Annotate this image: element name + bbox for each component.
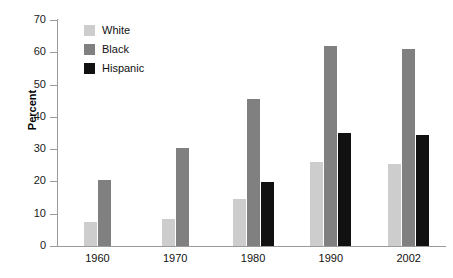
y-axis-tick-label: 60 [18, 46, 46, 57]
bar-white [233, 199, 246, 246]
y-axis-tick [50, 214, 57, 215]
x-axis-tick-label: 1980 [223, 252, 283, 264]
bar-white [310, 162, 323, 246]
bar-group [233, 20, 274, 246]
bar-hispanic [416, 135, 429, 246]
x-axis-line [57, 246, 446, 247]
y-axis-tick [50, 117, 57, 118]
bar-white [162, 219, 175, 246]
y-axis-tick [50, 85, 57, 86]
y-axis-tick [50, 246, 57, 247]
bar-group [84, 20, 111, 246]
bar-white [84, 222, 97, 246]
bar-black [98, 180, 111, 246]
bar-chart: Percent 010203040506070 1960197019801990… [0, 0, 453, 278]
x-axis-tick-label: 1970 [145, 252, 205, 264]
x-axis-tick-label: 1960 [67, 252, 127, 264]
bar-hispanic [261, 182, 274, 246]
y-axis-tick-label: 30 [18, 143, 46, 154]
bar-black [402, 49, 415, 246]
y-axis-tick-label: 70 [18, 14, 46, 25]
x-axis-tick-label: 1990 [301, 252, 361, 264]
y-axis-tick [50, 149, 57, 150]
y-axis-tick-label: 40 [18, 111, 46, 122]
bar-group [162, 20, 189, 246]
bar-group [310, 20, 351, 246]
y-axis-tick-label: 0 [18, 240, 46, 251]
bar-white [388, 164, 401, 246]
y-axis-tick [50, 181, 57, 182]
bar-hispanic [338, 133, 351, 246]
x-axis-tick-label: 2002 [379, 252, 439, 264]
bar-black [324, 46, 337, 246]
bar-group [388, 20, 429, 246]
y-axis-tick-label: 10 [18, 208, 46, 219]
bar-black [176, 148, 189, 246]
y-axis-tick-label: 50 [18, 79, 46, 90]
plot-area [57, 20, 446, 246]
bar-black [247, 99, 260, 246]
y-axis-tick [50, 20, 57, 21]
y-axis-tick-label: 20 [18, 175, 46, 186]
y-axis-tick [50, 52, 57, 53]
